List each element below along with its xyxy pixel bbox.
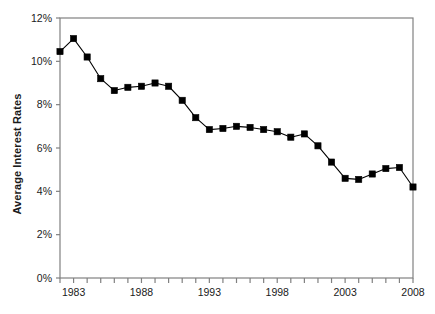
data-point-marker <box>383 165 389 171</box>
data-point-marker <box>70 35 76 41</box>
data-point-marker <box>342 175 348 181</box>
data-point-marker <box>57 48 63 54</box>
x-tick-label: 1998 <box>266 286 290 298</box>
y-tick-label: 8% <box>37 98 52 110</box>
plot-border <box>60 18 413 278</box>
data-point-marker <box>396 164 402 170</box>
data-point-marker <box>125 84 131 90</box>
data-point-marker <box>356 176 362 182</box>
data-marker-group <box>57 35 416 190</box>
axes-group <box>60 18 413 278</box>
interest-rate-line-chart: Average Interest Rates 0%2%4%6%8%10%12% … <box>0 0 435 314</box>
data-point-marker <box>193 115 199 121</box>
data-point-marker <box>152 80 158 86</box>
y-tick-label: 12% <box>31 12 52 24</box>
data-point-marker <box>138 83 144 89</box>
data-line-group <box>60 39 413 187</box>
chart-plot-area: 0%2%4%6%8%10%12% 19831988199319982003200… <box>0 0 435 314</box>
data-point-marker <box>274 129 280 135</box>
data-point-marker <box>179 97 185 103</box>
x-tick-label: 2003 <box>333 286 357 298</box>
x-tick-label: 1988 <box>130 286 154 298</box>
data-point-marker <box>315 143 321 149</box>
data-point-marker <box>328 159 334 165</box>
data-point-marker <box>98 76 104 82</box>
x-tick-group: 198319881993199820032008 <box>60 278 425 298</box>
y-tick-label: 2% <box>37 228 52 240</box>
data-point-marker <box>410 184 416 190</box>
y-tick-label: 0% <box>37 272 52 284</box>
data-point-marker <box>166 83 172 89</box>
data-point-marker <box>369 171 375 177</box>
data-point-marker <box>301 131 307 137</box>
data-point-marker <box>84 54 90 60</box>
x-tick-label: 1993 <box>198 286 222 298</box>
data-point-marker <box>288 134 294 140</box>
x-tick-label: 1983 <box>62 286 86 298</box>
y-tick-label: 6% <box>37 142 52 154</box>
y-tick-group: 0%2%4%6%8%10%12% <box>31 12 60 284</box>
data-point-marker <box>111 87 117 93</box>
data-point-marker <box>220 125 226 131</box>
x-tick-label: 2008 <box>401 286 425 298</box>
data-line <box>60 39 413 187</box>
data-point-marker <box>261 126 267 132</box>
y-tick-label: 4% <box>37 185 52 197</box>
data-point-marker <box>233 123 239 129</box>
data-point-marker <box>206 126 212 132</box>
y-tick-label: 10% <box>31 55 52 67</box>
data-point-marker <box>247 124 253 130</box>
